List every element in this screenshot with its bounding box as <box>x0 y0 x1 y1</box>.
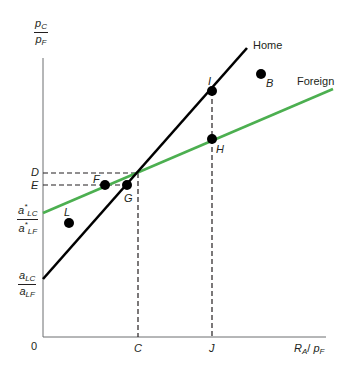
label-I: I <box>208 76 211 87</box>
tick-D: D <box>31 167 39 178</box>
point-F <box>100 180 110 190</box>
tick-E: E <box>31 180 38 191</box>
y-label-num-sub: C <box>41 22 47 31</box>
point-L <box>64 218 74 228</box>
foreign-line-label: Foreign <box>297 76 334 87</box>
point-I <box>207 86 217 96</box>
fi-num-sub: LC <box>27 209 37 218</box>
origin-label: 0 <box>31 341 37 352</box>
label-F: F <box>93 174 100 185</box>
home-line-label: Home <box>253 40 282 51</box>
tick-home-intercept: aLC aLF <box>18 270 36 300</box>
x-label-main: R <box>294 342 302 354</box>
x-axis-label: RA/ pF <box>294 343 324 356</box>
x-label-p-sub: F <box>320 347 325 356</box>
foreign-line <box>43 89 333 213</box>
label-L: L <box>64 207 70 218</box>
point-B <box>256 69 266 79</box>
tick-foreign-intercept: a*LC a*LF <box>17 203 38 236</box>
diagram-canvas <box>0 0 352 368</box>
fi-den-sub: LF <box>28 227 37 236</box>
tick-C: C <box>134 343 142 354</box>
hi-num-sub: LC <box>25 274 35 283</box>
tick-J: J <box>209 343 215 354</box>
home-line <box>43 48 247 279</box>
point-G <box>122 180 132 190</box>
label-G: G <box>124 193 133 204</box>
label-H: H <box>216 144 224 155</box>
hi-den-sub: LF <box>26 290 35 299</box>
y-label-den-sub: F <box>42 38 47 47</box>
label-B: B <box>266 78 273 89</box>
y-axis-label: pC pF <box>34 18 48 48</box>
